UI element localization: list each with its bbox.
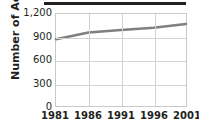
x-axis-tick-labels: 19811986199119962001 bbox=[0, 109, 199, 127]
line-chart-figure: Number of Acres 03006009001,200 19811986… bbox=[0, 0, 199, 130]
x-tick-label: 2001 bbox=[167, 109, 199, 123]
y-tick-label: 1,200 bbox=[4, 8, 52, 18]
gridline-vertical bbox=[155, 14, 156, 106]
gridline-vertical bbox=[89, 14, 90, 106]
y-tick-label: 900 bbox=[4, 32, 52, 42]
plot-area bbox=[55, 13, 187, 107]
gridline-horizontal bbox=[56, 85, 186, 86]
top-divider-rule bbox=[44, 2, 186, 5]
data-series-line bbox=[56, 14, 186, 106]
gridline-vertical bbox=[122, 14, 123, 106]
y-tick-label: 600 bbox=[4, 55, 52, 65]
y-tick-label: 300 bbox=[4, 79, 52, 89]
gridline-horizontal bbox=[56, 61, 186, 62]
gridline-horizontal bbox=[56, 38, 186, 39]
